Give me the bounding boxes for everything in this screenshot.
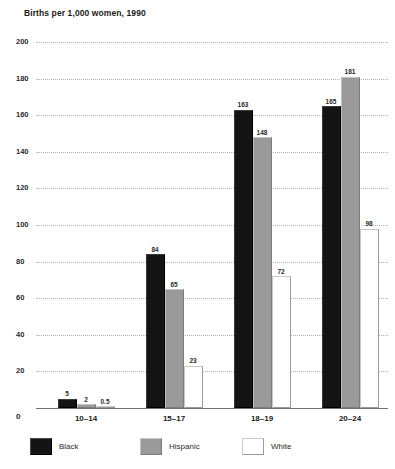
y-axis-zero-label: 0 xyxy=(16,412,20,421)
category-label-10-14: 10–14 xyxy=(75,414,97,423)
gridline-0 xyxy=(36,408,388,409)
bar-value-label: 165 xyxy=(326,99,337,106)
bar-black-15-17[interactable]: 84 xyxy=(146,254,165,408)
bar-value-label: 181 xyxy=(345,69,356,76)
bar-black-10-14[interactable]: 5 xyxy=(58,399,77,408)
bar-value-label: 65 xyxy=(170,282,177,289)
bar-value-label: 2 xyxy=(84,397,88,404)
bar-value-label: 72 xyxy=(277,269,284,276)
bar-value-label: 148 xyxy=(257,130,268,137)
bar-hispanic-20-24[interactable]: 181 xyxy=(341,77,360,408)
bar-value-label: 163 xyxy=(238,102,249,109)
bar-value-label: 98 xyxy=(365,221,372,228)
category-label-20-24: 20–24 xyxy=(339,414,361,423)
bar-white-18-19[interactable]: 72 xyxy=(272,276,291,408)
legend-entry-hispanic[interactable]: Hispanic xyxy=(140,438,200,455)
legend-swatch-hispanic xyxy=(140,438,162,455)
legend-entry-black[interactable]: Black xyxy=(30,438,79,455)
bar-group-10-14: 520.5 xyxy=(58,42,115,408)
bar-value-label: 0.5 xyxy=(100,399,109,406)
bar-value-label: 5 xyxy=(65,391,69,398)
chart-legend: BlackHispanicWhite xyxy=(30,438,370,462)
x-axis-category-labels: 10–1415–1718–1920–24 xyxy=(36,414,388,428)
bar-black-18-19[interactable]: 163 xyxy=(234,110,253,408)
bar-group-18-19: 16314872 xyxy=(234,42,291,408)
bar-value-label: 84 xyxy=(151,247,158,254)
bar-white-10-14[interactable]: 0.5 xyxy=(96,406,115,408)
bar-hispanic-15-17[interactable]: 65 xyxy=(165,289,184,408)
bar-white-15-17[interactable]: 23 xyxy=(184,366,203,408)
bar-hispanic-18-19[interactable]: 148 xyxy=(253,137,272,408)
legend-swatch-black xyxy=(30,438,52,455)
chart-title: Births per 1,000 women, 1990 xyxy=(24,8,146,18)
bar-group-15-17: 846523 xyxy=(146,42,203,408)
plot-area: 520.58465231631487216518198 xyxy=(36,42,388,408)
bar-hispanic-10-14[interactable]: 2 xyxy=(77,404,96,408)
bar-white-20-24[interactable]: 98 xyxy=(360,229,379,408)
bar-group-20-24: 16518198 xyxy=(322,42,379,408)
legend-label-black: Black xyxy=(59,442,79,451)
category-label-18-19: 18–19 xyxy=(251,414,273,423)
legend-label-hispanic: Hispanic xyxy=(169,442,200,451)
legend-entry-white[interactable]: White xyxy=(242,438,291,455)
bar-value-label: 23 xyxy=(189,358,196,365)
bar-black-20-24[interactable]: 165 xyxy=(322,106,341,408)
legend-label-white: White xyxy=(271,442,291,451)
legend-swatch-white xyxy=(242,438,264,455)
category-label-15-17: 15–17 xyxy=(163,414,185,423)
